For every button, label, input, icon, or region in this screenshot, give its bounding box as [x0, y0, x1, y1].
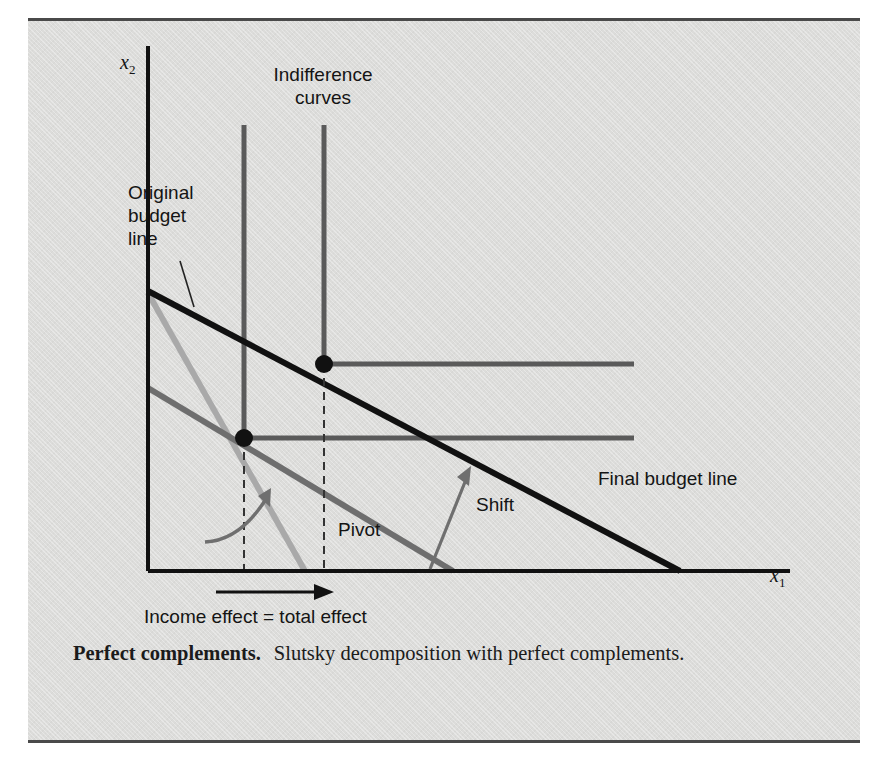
pivot-arrow: [205, 488, 271, 542]
figure-caption: Perfect complements.Slutsky decompositio…: [73, 638, 733, 669]
shift-arrow: [430, 466, 471, 569]
indifference-curves-label: Indifference curves: [228, 63, 418, 109]
shift-label: Shift: [476, 493, 514, 516]
original-budget-leader-line: [180, 261, 194, 307]
original-budget-line-label: Original budget line: [128, 181, 193, 250]
indifference-curve-original: [244, 125, 634, 438]
caption-lead: Perfect complements.: [73, 642, 261, 664]
figure-page: x2 x1 Indifference curves Original budge…: [0, 0, 888, 767]
y-axis-label: x2: [120, 51, 135, 78]
indifference-curve-final: [324, 125, 634, 364]
optimal-point-original: [235, 429, 253, 447]
pivot-label: Pivot: [338, 518, 380, 541]
final-budget-line-label: Final budget line: [598, 467, 737, 490]
pivoted-budget-line: [148, 388, 453, 571]
caption-body: Slutsky decomposition with perfect compl…: [274, 642, 685, 664]
x-axis-label: x1: [770, 564, 785, 591]
figure-card: x2 x1 Indifference curves Original budge…: [28, 18, 860, 743]
income-effect-label: Income effect = total effect: [144, 605, 367, 628]
income-effect-arrow: [216, 584, 334, 600]
optimal-point-final: [315, 355, 333, 373]
